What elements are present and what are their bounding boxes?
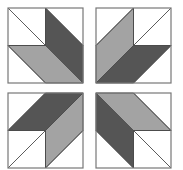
quilt-block-bottom-right [96, 93, 171, 168]
quilt-block-top-right [96, 8, 171, 83]
quilt-block-bottom-left [8, 93, 83, 168]
quilt-diagram [0, 0, 183, 170]
quilt-block-top-left [8, 8, 83, 83]
